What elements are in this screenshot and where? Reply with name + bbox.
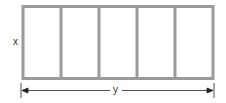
arrowhead-left-icon xyxy=(22,88,28,93)
outer-rectangle xyxy=(23,7,213,79)
width-label: y xyxy=(113,85,118,95)
rectangle-frame xyxy=(23,7,213,79)
height-label: x xyxy=(13,37,18,47)
arrowhead-right-icon xyxy=(207,88,213,93)
